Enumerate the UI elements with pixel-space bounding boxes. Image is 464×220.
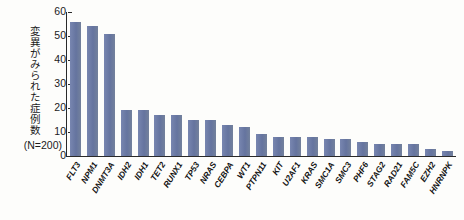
bar-chart-figure: 変異がみられた症例数 (N=200) 0102030405060 FLT3NPM… — [0, 0, 464, 220]
bar-slot — [287, 12, 304, 156]
bar-slot — [135, 12, 152, 156]
bar-slot — [67, 12, 84, 156]
x-label-slot: IDH1 — [135, 158, 152, 218]
x-label-slot: RUNX1 — [168, 158, 185, 218]
bar-NPM1 — [87, 26, 98, 156]
y-tick-label: 20 — [54, 101, 66, 113]
x-tick-label-text: KIT — [270, 160, 286, 177]
bar-slot — [202, 12, 219, 156]
bar-FLT3 — [70, 22, 81, 156]
x-label-slot: TET2 — [152, 158, 169, 218]
bar-slot — [219, 12, 236, 156]
y-tick-label: 40 — [54, 53, 66, 65]
bar-slot — [304, 12, 321, 156]
x-label-slot: NRAS — [202, 158, 219, 218]
bar-slot — [236, 12, 253, 156]
x-label-slot: FAM5C — [405, 158, 422, 218]
x-label-slot: DNMT3A — [101, 158, 118, 218]
x-label-slot: IDH2 — [118, 158, 135, 218]
x-label-slot: TP53 — [185, 158, 202, 218]
x-label-slot: FLT3 — [67, 158, 84, 218]
y-tick-mark — [68, 156, 72, 157]
bar-slot — [405, 12, 422, 156]
bar-slot — [101, 12, 118, 156]
y-tick-label: 60 — [54, 5, 66, 17]
x-label-slot: STAG2 — [371, 158, 388, 218]
y-tick-label: 30 — [54, 77, 66, 89]
bar-slot — [354, 12, 371, 156]
x-label-slot: CEBPA — [219, 158, 236, 218]
x-label-slot: PHF6 — [354, 158, 371, 218]
bar-slot — [422, 12, 439, 156]
x-tick-label-text: IDH1 — [132, 160, 151, 181]
bar-DNMT3A — [104, 34, 115, 156]
bar-slot — [84, 12, 101, 156]
x-label-slot: RAD21 — [388, 158, 405, 218]
x-label-slot: KIT — [270, 158, 287, 218]
x-axis-tick-labels: FLT3NPM1DNMT3AIDH2IDH1TET2RUNX1TP53NRASC… — [67, 158, 456, 218]
sample-size-note: (N=200) — [6, 139, 62, 151]
x-label-slot: SMC1A — [321, 158, 338, 218]
y-tick-0: 0 — [36, 156, 72, 157]
bar-slot — [185, 12, 202, 156]
y-tick-label: 50 — [54, 29, 66, 41]
bar-slot — [253, 12, 270, 156]
bar-slot — [371, 12, 388, 156]
bar-slot — [152, 12, 169, 156]
y-tick-label: 10 — [54, 125, 66, 137]
y-axis-label-text: 変異がみられた症例数 — [29, 26, 40, 136]
x-label-slot: HNRNPK — [439, 158, 456, 218]
x-tick-label-text: IDH2 — [115, 160, 134, 181]
bar-slot — [168, 12, 185, 156]
bar-slot — [388, 12, 405, 156]
y-tick-label: 0 — [60, 149, 66, 161]
x-label-slot: U2AF1 — [287, 158, 304, 218]
bar-slot — [338, 12, 355, 156]
bar-slot — [439, 12, 456, 156]
x-label-slot: SMC3 — [338, 158, 355, 218]
x-label-slot: PTPN11 — [253, 158, 270, 218]
bar-slot — [321, 12, 338, 156]
